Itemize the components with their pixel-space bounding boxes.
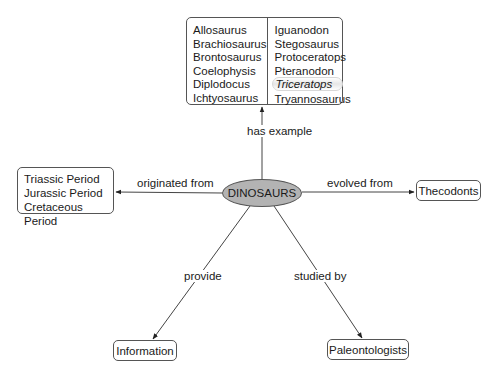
example-item: Tryannosaurus [275,92,351,106]
example-item: Diplodocus [193,77,267,91]
information-node[interactable]: Information [113,340,177,361]
period-item: Jurassic Period [24,186,113,200]
link-label-provide: provide [184,270,222,282]
link-label-has-example: has example [247,125,312,137]
examples-left-column: Allosaurus Brachiosaurus Brontosaurus Co… [187,18,268,104]
thecodonts-node[interactable]: Thecodonts [416,180,481,201]
example-item: Brontosaurus [193,50,267,64]
example-item: Protoceratops [275,50,351,64]
example-item: Pteranodon [275,64,351,78]
example-item: Stegosaurus [275,37,351,51]
period-item: Cretaceous Period [24,200,113,228]
examples-node[interactable]: Allosaurus Brachiosaurus Brontosaurus Co… [186,17,343,105]
link-label-studied-by: studied by [294,270,346,282]
central-concept-dinosaurs[interactable]: DINOSAURS [222,179,302,207]
example-item-highlighted[interactable]: Triceratops [272,77,343,91]
link-label-originated-from: originated from [137,177,214,189]
example-item: Brachiosaurus [193,37,267,51]
example-item: Iguanodon [275,23,351,37]
period-item: Triassic Period [24,172,113,186]
paleontologists-node[interactable]: Paleontologists [327,339,409,360]
periods-node[interactable]: Triassic Period Jurassic Period Cretaceo… [17,167,114,214]
example-item: Allosaurus [193,23,267,37]
example-item: Coelophysis [193,64,267,78]
link-label-evolved-from: evolved from [327,177,393,189]
examples-right-column: Iguanodon Stegosaurus Protoceratops Pter… [268,18,351,104]
example-item: Ichtyosaurus [193,91,267,105]
